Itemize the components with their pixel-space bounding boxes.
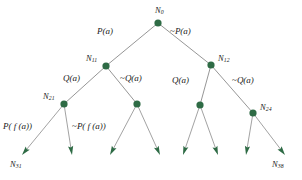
tree-edges — [64, 23, 253, 113]
arrowhead-icon — [22, 146, 30, 155]
node-label-n12: N12 — [218, 54, 230, 64]
tree-node-n21[interactable] — [60, 100, 67, 107]
leaf-edge — [247, 113, 253, 148]
leaf-edge — [137, 104, 157, 149]
edge-label-P-fa: P( f (a)) — [3, 122, 32, 131]
node-label-n0: N0 — [155, 6, 164, 16]
edge-label-not-P-a: ~P(a) — [170, 27, 191, 36]
leaf-edge — [185, 105, 200, 148]
tree-edge — [64, 66, 106, 104]
leaf-edge — [253, 113, 281, 149]
leaf-edge — [26, 104, 64, 150]
edge-label-Q-a-left: Q(a) — [63, 74, 80, 83]
leaf-edge — [200, 105, 216, 148]
tree-graphics — [0, 0, 302, 180]
edge-label-Q-a-right: Q(a) — [172, 76, 189, 85]
arrowhead-icon — [110, 146, 117, 155]
node-label-n21: N21 — [43, 92, 55, 102]
tree-node-n0[interactable] — [154, 19, 161, 26]
edge-label-not-P-fa: ~P( f (a)) — [72, 122, 106, 131]
tree-node-n12[interactable] — [207, 61, 214, 68]
tree-edge — [106, 23, 158, 66]
leaf-edge — [113, 104, 137, 149]
tree-node-n22[interactable] — [133, 100, 140, 107]
node-label-n11: N11 — [86, 54, 97, 64]
edge-label-P-a: P(a) — [97, 27, 113, 36]
arrowhead-icon — [277, 146, 285, 155]
tree-node-n24[interactable] — [249, 109, 256, 116]
leaf-arrows — [22, 104, 285, 155]
edge-label-not-Q-a-left: ~Q(a) — [120, 74, 142, 83]
tree-edge — [106, 66, 137, 104]
tree-nodes — [60, 19, 256, 116]
search-tree-diagram: N0N11N12N21N24N31N38P(a)~P(a)Q(a)~Q(a)Q(… — [0, 0, 302, 180]
tree-node-n23[interactable] — [196, 101, 203, 108]
leaf-label-l1: N31 — [10, 160, 22, 170]
leaf-edge — [64, 104, 71, 148]
arrowhead-icon — [154, 146, 160, 155]
node-label-n24: N24 — [260, 103, 272, 113]
edge-label-not-Q-a-right: ~Q(a) — [232, 76, 254, 85]
tree-node-n11[interactable] — [102, 62, 109, 69]
tree-edge — [200, 65, 211, 105]
tree-edge — [211, 65, 253, 113]
leaf-label-l8: N38 — [272, 160, 284, 170]
